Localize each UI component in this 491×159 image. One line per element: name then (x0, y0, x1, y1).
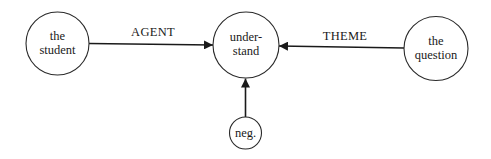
edge-theme: THEME (279, 29, 404, 48)
node-neg: neg. (230, 117, 262, 149)
edge-agent: AGENT (89, 25, 213, 45)
node-understand: under- stand (213, 12, 279, 78)
node-label-line-1: neg. (235, 126, 256, 140)
node-label-line-1: the (428, 34, 444, 48)
agent-arrow (89, 44, 213, 46)
node-label-line-1: the (50, 29, 66, 43)
node-label-line-2: student (39, 43, 76, 57)
node-the-question: the question (404, 17, 468, 81)
conceptual-graph-diagram: AGENT THEME the student under- stand the… (0, 0, 491, 159)
node-label-line-1: under- (230, 30, 262, 44)
theme-arrow (279, 46, 404, 48)
node-label-line-2: stand (233, 44, 260, 58)
node-the-student: the student (26, 12, 89, 75)
edge-label-agent: AGENT (131, 25, 175, 39)
edge-label-theme: THEME (323, 29, 368, 43)
node-label-line-2: question (415, 48, 458, 62)
